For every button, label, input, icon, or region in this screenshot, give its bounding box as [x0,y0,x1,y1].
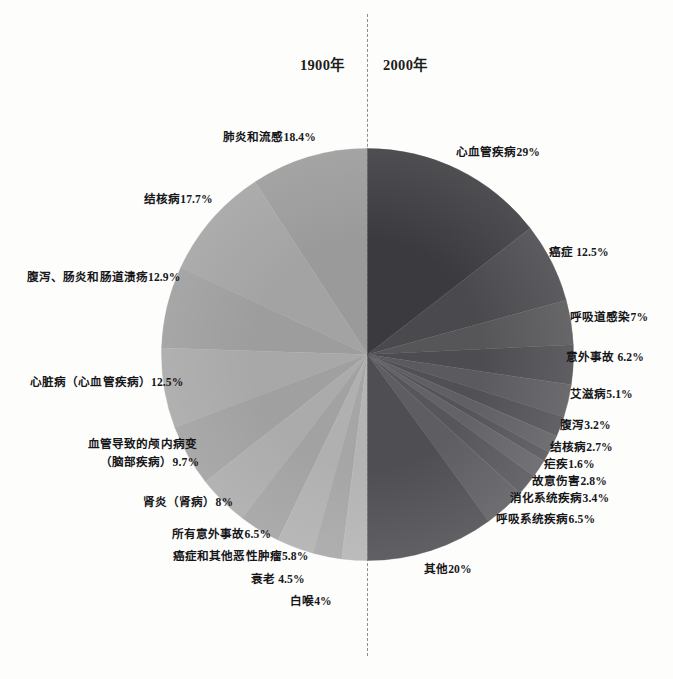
slice-label-left-5: （脑部疾病）9.7% [100,455,199,470]
slice-label-left-10: 白喉4% [290,594,332,609]
slice-label-right-9: 消化系统疾病3.4% [510,491,609,506]
slice-label-right-3: 意外事故 6.2% [566,350,644,365]
slice-label-left-2: 腹泻、肠炎和肠道溃疡12.9% [27,270,180,285]
slice-label-right-8: 故意伤害2.8% [532,474,607,489]
slice-label-left-0: 肺炎和流感18.4% [223,130,316,145]
slice-label-left-1: 结核病17.7% [144,192,213,207]
slice-label-left-7: 所有意外事故6.5% [172,527,271,542]
year-label-1900: 1900年 [300,53,345,74]
slice-label-right-10: 呼吸系统疾病6.5% [496,512,595,527]
slice-label-right-4: 艾滋病5.1% [570,387,633,402]
slice-label-right-0: 心血管疾病29% [456,145,540,160]
slice-label-left-8: 癌症和其他恶性肿瘤5.8% [173,549,308,564]
year-label-2000: 2000年 [383,53,428,74]
slice-label-left-9: 衰老 4.5% [251,572,305,587]
slice-label-right-7: 疟疾1.6% [544,457,595,472]
pie-chart-root: 1900年 2000年 肺炎和流感18.4%结核病17.7%腹泻、肠炎和肠道溃疡… [0,0,673,679]
slice-label-left-3: 心脏病（心血管疾病）12.5% [30,375,183,390]
slice-label-right-5: 腹泻3.2% [560,418,611,433]
slice-label-right-6: 结核病2.7% [550,440,613,455]
slice-label-left-6: 肾炎（肾病）8% [143,495,233,510]
slice-label-right-2: 呼吸道感染7% [570,310,648,325]
slice-label-left-4: 血管导致的颅内病变 [88,437,197,452]
slice-label-right-11: 其他20% [424,562,472,577]
slice-label-right-1: 癌症 12.5% [549,245,609,260]
